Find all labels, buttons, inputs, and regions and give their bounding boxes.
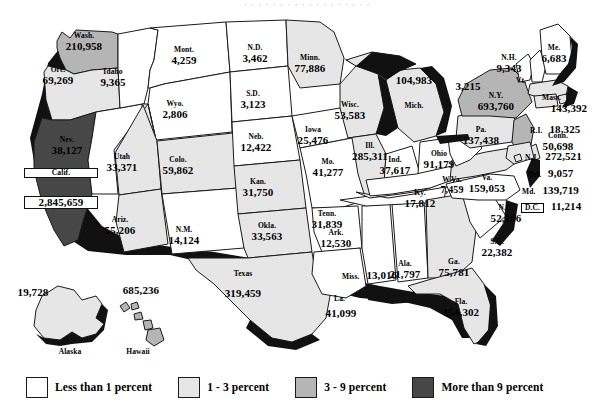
state-connecticut [534, 94, 558, 108]
state-hawaii [120, 302, 164, 346]
legend-swatch-less-than-1 [26, 377, 48, 398]
state-alabama [392, 200, 428, 282]
state-minnesota [286, 20, 344, 88]
state-oklahoma [238, 208, 312, 258]
legend-item-1-to-3: 1 - 3 percent [178, 377, 269, 398]
state-mississippi [362, 204, 396, 284]
legend-item-more-than-9: More than 9 percent [412, 377, 543, 398]
legend-label-more-than-9: More than 9 percent [441, 381, 543, 393]
legend-label-1-to-3: 1 - 3 percent [207, 381, 269, 393]
state-newmexico [162, 188, 244, 254]
legend-label-less-than-1: Less than 1 percent [55, 381, 152, 393]
state-nebraska [232, 116, 300, 166]
map-canvas: .s0{fill:#ffffff;stroke:#1a1a1a;stroke-w… [0, 8, 614, 360]
state-northdakota [226, 20, 288, 72]
legend-swatch-1-to-3 [178, 377, 200, 398]
state-arizona [116, 189, 168, 252]
state-alaska [34, 286, 104, 340]
map-shapes: .s0{fill:#ffffff;stroke:#1a1a1a;stroke-w… [0, 8, 614, 360]
legend-item-less-than-1: Less than 1 percent [26, 377, 152, 398]
state-wisconsin [340, 66, 384, 138]
choropleth-map-figure: · · · · · · · · · · · · · · · · · · .s0{… [0, 0, 614, 415]
state-arkansas [312, 206, 362, 252]
state-colorado [157, 133, 238, 194]
state-kansas [234, 160, 306, 214]
map-legend: Less than 1 percent 1 - 3 percent 3 - 9 … [26, 374, 586, 400]
legend-item-3-to-9: 3 - 9 percent [295, 377, 386, 398]
state-dc [514, 154, 522, 162]
state-louisiana [312, 248, 366, 298]
state-southdakota [230, 66, 292, 122]
legend-swatch-3-to-9 [295, 377, 317, 398]
legend-label-3-to-9: 3 - 9 percent [324, 381, 386, 393]
legend-swatch-more-than-9 [412, 377, 434, 398]
state-washington [57, 30, 118, 74]
